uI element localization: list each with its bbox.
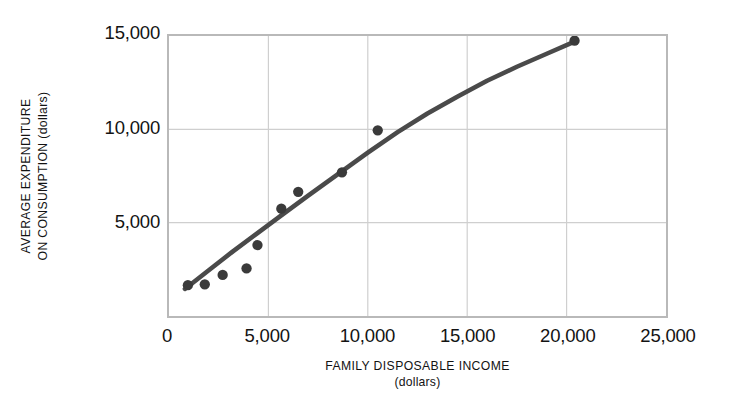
x-axis-title-line-1: FAMILY DISPOSABLE INCOME — [325, 359, 510, 373]
data-point — [569, 36, 579, 46]
plot-area — [167, 34, 668, 318]
data-point — [373, 125, 383, 135]
data-layer — [169, 36, 666, 316]
data-point — [241, 263, 251, 273]
data-point — [276, 204, 286, 214]
y-tick-label: 10,000 — [60, 117, 160, 139]
data-point — [218, 270, 228, 280]
y-axis-title-line-1: AVERAGE EXPENDITURE — [18, 34, 35, 318]
y-tick-label: 5,000 — [60, 211, 160, 233]
data-point — [183, 280, 193, 290]
data-point — [337, 167, 347, 177]
x-axis-tick-labels: 05,00010,00015,00020,00025,000 — [0, 325, 740, 353]
x-axis-title-line-2: (dollars) — [167, 374, 668, 390]
x-axis-title: FAMILY DISPOSABLE INCOME (dollars) — [167, 358, 668, 390]
y-tick-label: 15,000 — [60, 22, 160, 44]
data-point — [252, 240, 262, 250]
consumption-function-chart: AVERAGE EXPENDITURE ON CONSUMPTION (doll… — [0, 0, 740, 412]
data-point — [200, 279, 210, 289]
data-point — [293, 187, 303, 197]
fitted-curve — [185, 42, 575, 289]
y-axis-title-line-2: ON CONSUMPTION (dollars) — [35, 34, 52, 318]
x-tick-label: 25,000 — [608, 325, 728, 347]
